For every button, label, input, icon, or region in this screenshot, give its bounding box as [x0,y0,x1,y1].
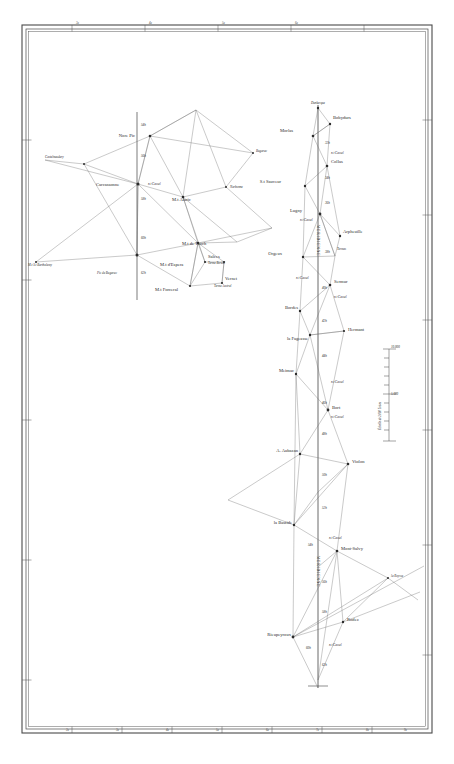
meridian-mark: n.t Cassel [329,536,342,540]
meridian-mark: 46h [322,401,327,405]
meridian-mark: n.t Cassel [296,276,309,280]
station-label: M.t d'Espera [160,262,183,267]
meridian-mark: 54h [141,123,146,127]
station-label: Narbonne [229,185,243,189]
station-label: Vernet [225,276,238,281]
station-label: Bordes [285,305,298,310]
meridian-mark: 42h [322,319,327,323]
meridian-mark: 62h [322,663,327,667]
station-label: Salces [208,254,220,259]
station-label: M.t Forceral [155,287,179,292]
meridian-mark: 38h [325,250,330,254]
meridian-mark: 62h [141,271,146,275]
station-label: Carcassonne [96,182,119,187]
meridian-mark: 32h [325,141,330,145]
meridian-mark: 40h [322,286,327,290]
meridian-mark: n.t Cassel [300,218,313,222]
meridian-mark: n.t Cassel [331,380,344,384]
survey-map-canvas: 3e 4e 5e 6e 2e 3e 4e 5e 6e 7e 8e 9e [0,0,454,764]
meridian-mark: 56h [141,154,146,158]
station-label: Nore Pic [119,133,135,138]
station-label: Lugny [290,208,303,213]
paper-background [0,0,454,764]
meridienne-label-lower: MERIDIENNE [316,556,320,587]
meridian-mark: 58h [322,610,327,614]
meridian-mark: 60h [141,236,146,240]
scale-top-label: 10.000 [391,345,400,349]
station-label: la Roysse [391,574,404,578]
station-label: Meimac [279,368,294,373]
station-label: Mont-Salvy [341,546,364,551]
station-label: Bugarac [256,149,268,153]
meridian-mark: 44h [322,354,327,358]
map-sheet: 3e 4e 5e 6e 2e 3e 4e 5e 6e 7e 8e 9e [0,0,454,764]
meridian-mark: 36h [325,201,330,205]
station-label: M.t de Tauch [182,241,207,246]
meridian-mark: n.t Cassel [334,295,347,299]
station-label: Bort [332,405,341,410]
station-label: Pic de Bugarac [96,271,117,275]
station-label: la Bastide [274,520,292,525]
station-label: Castelnaudary [45,155,64,159]
station-label: Orgeux [268,251,282,256]
meridienne-label-upper: MERIDIENNE [316,225,320,256]
station-label: M.t S.t Barthelemy [27,263,52,267]
station-label: Sermur [334,279,348,284]
scale-caption: Échelle de 2 000 Toises [377,401,382,431]
station-label: Collas [331,159,343,164]
meridian-mark: n.t Cassel [148,182,161,186]
meridian-mark: 50h [322,473,327,477]
station-label: A. Aubazan [276,448,298,453]
meridian-mark: 34h [325,176,330,180]
dunkerque-label: Dunkerque [310,101,326,105]
station-label: Rodez [347,617,359,622]
meridian-mark: n.t Cassel [329,643,342,647]
meridian-mark: n.t Cassel [331,415,344,419]
meridian-mark: 54h [308,543,313,547]
station-label: Hermant [348,327,365,332]
station-label: la Fageasse [287,336,308,341]
terminal-label: Terme Boréal [208,261,225,265]
scale-mid-label: 5.000 [391,392,399,396]
meridian-mark: 58h [141,197,146,201]
station-label: Morlas [280,128,293,133]
station-label: Arpheuille [343,229,363,234]
station-label: M.t Alaric [172,197,191,202]
station-label: Termes [337,247,347,251]
station-label: Violon [352,459,365,464]
station-label: Rieupeyroux [267,632,291,637]
meridian-mark: 52h [322,506,327,510]
meridian-mark: n.t Cassel [331,151,344,155]
station-label: S.t Sauveur [260,179,282,184]
terminal-label: Terme Austral [214,284,232,288]
meridian-mark: 48h [322,432,327,436]
meridian-mark: 56h [322,580,327,584]
station-label: Bobydurs [333,115,351,120]
meridian-mark: 60h [306,646,311,650]
